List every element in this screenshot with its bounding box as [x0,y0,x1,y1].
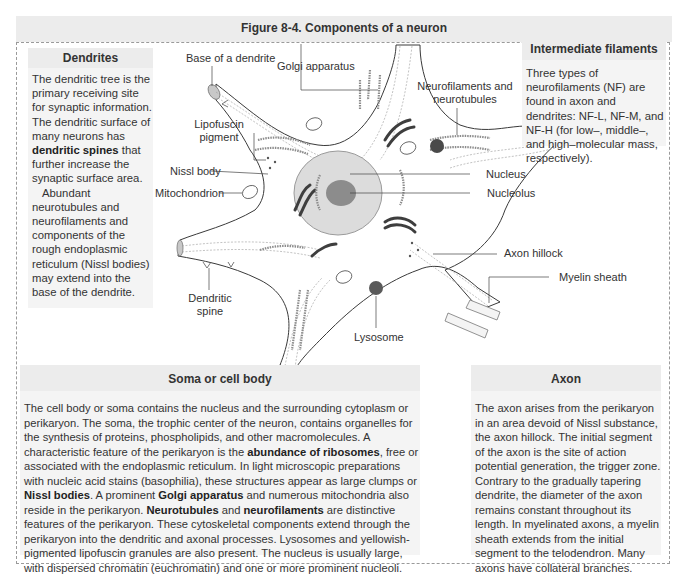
label-base-of-dendrite: Base of a dendrite [186,52,275,65]
soma-bold-nissl: Nissl bodies [24,489,90,501]
label-neurofilaments: Neurofilaments and neurotubules [413,80,517,106]
dendrites-heading: Dendrites [28,48,153,68]
dendrites-bold-term: dendritic spines [32,144,119,156]
label-lysosome: Lysosome [354,331,404,344]
lysosome-icon [430,139,444,153]
label-neurofilaments-line2: neurotubules [413,93,517,106]
label-lipofuscin-line1: Lipofuscin [186,118,252,131]
axon-heading: Axon [471,365,661,391]
label-lipofuscin-pigment: Lipofuscin pigment [186,118,252,144]
soma-text-3: . A prominent [90,489,158,501]
label-myelin-sheath: Myelin sheath [559,271,627,284]
label-nucleus: Nucleus [486,168,526,181]
dendrites-text-1: The dendritic tree is the primary receiv… [32,73,152,142]
dendrites-text-3: Abundant neurotubules and neurofilaments… [32,186,152,300]
dendrites-panel: Dendrites The dendritic tree is the prim… [28,48,153,308]
intermediate-filaments-heading: Intermediate filaments [522,38,666,60]
lysosome-icon-2 [369,281,383,295]
soma-bold-ribosomes: abundance of ribosomes [247,446,379,458]
intermediate-filaments-panel: Intermediate filaments Three types of ne… [522,38,666,146]
soma-panel: Soma or cell body The cell body or soma … [20,365,420,555]
soma-text: The cell body or soma contains the nucle… [24,401,420,575]
soma-heading: Soma or cell body [20,365,420,391]
label-axon-hillock: Axon hillock [504,247,563,260]
label-lipofuscin-line2: pigment [186,131,252,144]
axon-panel: Axon The axon arises from the perikaryon… [471,365,661,555]
label-mitochondrion: Mitochondrion [155,187,224,200]
soma-bold-neurofilaments: neurofilaments [244,504,324,516]
label-golgi-apparatus: Golgi apparatus [277,60,355,73]
dendrite-base-left-icon [177,240,183,256]
dendrites-text: The dendritic tree is the primary receiv… [32,72,152,299]
label-nissl-body: Nissl body [170,165,221,178]
label-dendritic-spine: Dendritic spine [183,292,237,318]
intermediate-filaments-text: Three types of neurofilaments (NF) are f… [526,66,666,165]
label-neurofilaments-line1: Neurofilaments and [413,80,517,93]
label-nucleolus: Nucleolus [487,187,535,200]
label-dendritic-spine-line1: Dendritic [183,292,237,305]
soma-bold-neurotubules: Neurotubules [147,504,219,516]
soma-bold-golgi: Golgi apparatus [158,489,243,501]
label-dendritic-spine-line2: spine [183,305,237,318]
soma-text-5: and [219,504,244,516]
axon-text: The axon arises from the perikaryon in a… [475,401,661,575]
